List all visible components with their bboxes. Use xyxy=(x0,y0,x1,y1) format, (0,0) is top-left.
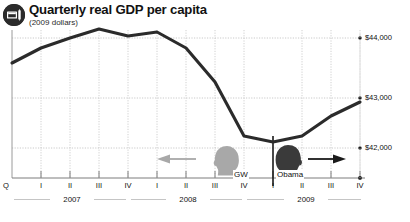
xtick-2008-q1: I xyxy=(147,181,167,190)
xtick-2007-q1: I xyxy=(31,181,51,190)
obama-label: Obama xyxy=(276,170,304,179)
gdp-chart: Quarterly real GDP per capita (2009 doll… xyxy=(0,0,410,222)
vertical-gridlines xyxy=(41,30,360,178)
right-arrow-icon xyxy=(308,155,346,164)
gw-annotation xyxy=(157,146,239,176)
left-arrow-icon xyxy=(157,155,196,164)
plot-area: $44,000 $43,000 $42,000 GW Obama xyxy=(0,0,410,200)
xtick-2009-q2: II xyxy=(292,181,312,190)
xtick-2009-q4: IV xyxy=(350,181,370,190)
xtick-2009-q3: III xyxy=(321,181,341,190)
year-label-2008: 2008 xyxy=(166,195,210,204)
xtick-2008-q4: IV xyxy=(234,181,254,190)
x-axis-ticks xyxy=(41,171,360,178)
q-prefix-label: Q xyxy=(3,181,9,190)
xtick-2009-q1: I xyxy=(263,181,283,190)
xtick-2008-q3: III xyxy=(205,181,225,190)
xtick-2008-q2: II xyxy=(176,181,196,190)
year-label-2009: 2009 xyxy=(284,195,328,204)
xtick-2007-q2: II xyxy=(60,181,80,190)
gw-label: GW xyxy=(233,170,249,179)
y-tick-label-43000: $43,000 xyxy=(365,93,392,102)
xtick-2007-q3: III xyxy=(89,181,109,190)
year-label-2007: 2007 xyxy=(50,195,94,204)
y-tick-label-44000: $44,000 xyxy=(365,33,392,42)
xtick-2007-q4: IV xyxy=(118,181,138,190)
y-tick-label-42000: $42,000 xyxy=(365,143,392,152)
